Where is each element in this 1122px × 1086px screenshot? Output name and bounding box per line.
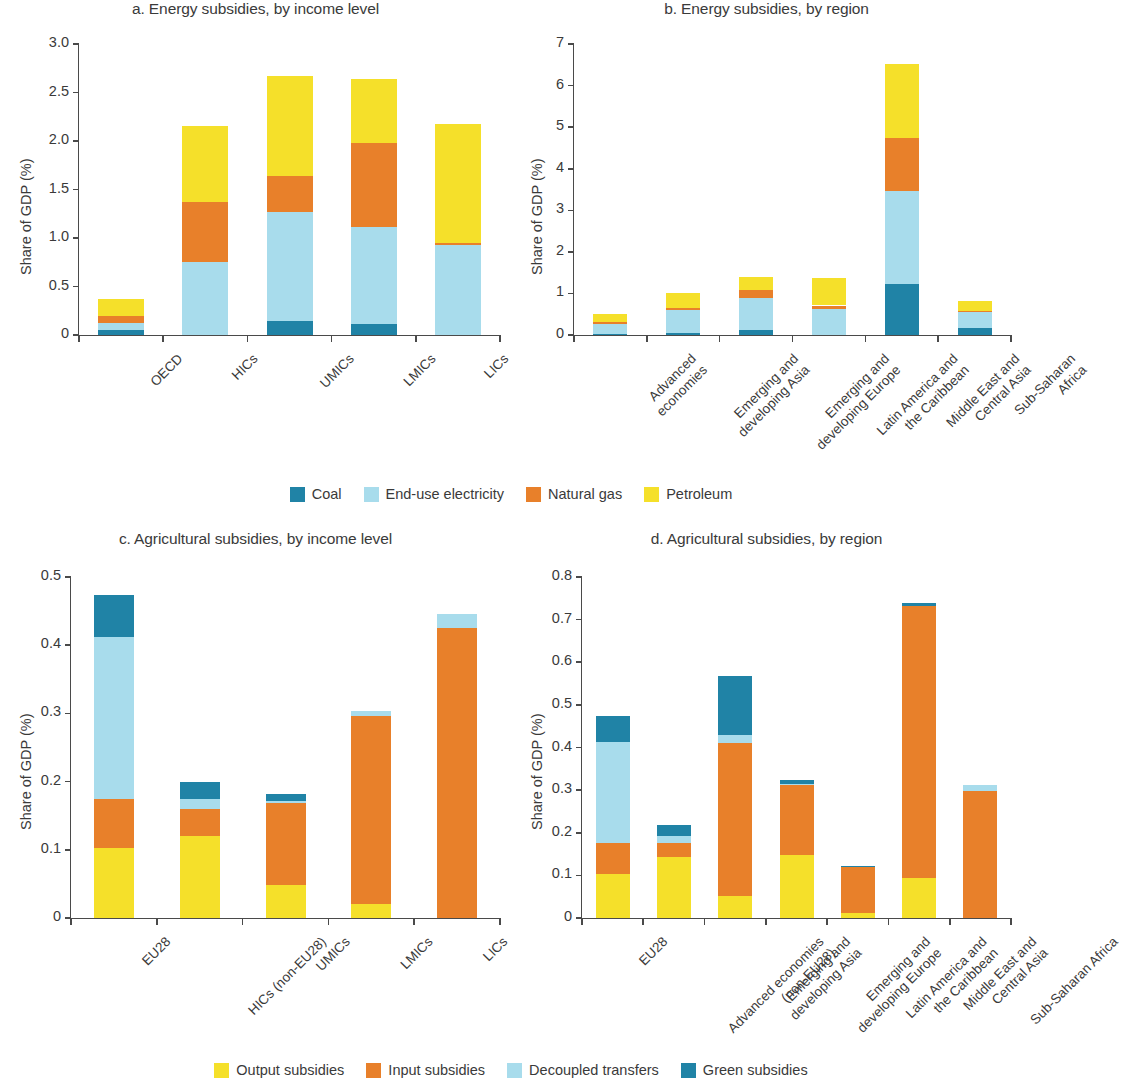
stacked-bar [351, 44, 397, 335]
x-tick-label: LMICs [398, 934, 437, 973]
y-tick-label: 4 [556, 159, 564, 175]
stacked-bar [666, 44, 700, 335]
legend-entry: Natural gas [526, 486, 622, 502]
bar-segment [902, 603, 936, 606]
bar-segment [596, 843, 630, 874]
y-tick-label: 0.3 [41, 703, 61, 719]
y-tick-mark [576, 576, 582, 578]
bar-segment [718, 735, 752, 744]
bar-segment [98, 299, 144, 315]
bar-segment [780, 785, 814, 854]
bar-group [593, 44, 627, 335]
bar-segment [351, 143, 397, 227]
bar-segment [958, 312, 992, 327]
bar-segment [812, 278, 846, 305]
legend-label: Input subsidies [388, 1062, 485, 1078]
y-tick-label: 0.2 [41, 772, 61, 788]
stacked-bar [266, 577, 306, 918]
y-tick-mark [65, 576, 71, 578]
x-tick-mark [247, 335, 249, 342]
bar-segment [666, 308, 700, 310]
bar-group [351, 577, 391, 918]
y-tick-mark [73, 286, 79, 288]
bar-group [739, 44, 773, 335]
bar-segment [739, 298, 773, 330]
bar-segment [885, 138, 919, 192]
stacked-bar [351, 577, 391, 918]
bar-group [182, 44, 228, 335]
y-tick-label: 5 [556, 117, 564, 133]
y-tick-label: 1.0 [49, 228, 69, 244]
legend-swatch [526, 487, 541, 502]
x-tick-mark [70, 918, 72, 925]
bar-segment [666, 333, 700, 335]
bar-segment [351, 711, 391, 716]
bar-segment [902, 606, 936, 877]
bar-segment [780, 784, 814, 786]
bar-segment [266, 803, 306, 884]
bar-segment [266, 885, 306, 918]
bar-group [94, 577, 134, 918]
bar-segment [657, 857, 691, 918]
bar-segment [596, 874, 630, 918]
bar-segment [182, 202, 228, 262]
x-tick-mark [865, 335, 867, 342]
stacked-bar [885, 44, 919, 335]
y-tick-label: 3 [556, 200, 564, 216]
x-tick-label: UMICs [317, 351, 357, 391]
stacked-bar [958, 44, 992, 335]
x-tick-mark [331, 335, 333, 342]
y-tick-label: 0 [564, 908, 572, 924]
stacked-bar [841, 577, 875, 918]
panel-d-title: d. Agricultural subsidies, by region [511, 530, 1022, 548]
y-tick-mark [568, 126, 574, 128]
bar-segment [666, 293, 700, 308]
legend-swatch [366, 1063, 381, 1078]
legend-label: Decoupled transfers [529, 1062, 659, 1078]
bar-segment [902, 878, 936, 918]
y-tick-label: 0.1 [41, 840, 61, 856]
y-tick-mark [568, 43, 574, 45]
panel-c-plot-area: 00.10.20.30.40.5 [70, 578, 499, 919]
stacked-bar [98, 44, 144, 335]
x-tick-mark [162, 335, 164, 342]
stacked-bar [718, 577, 752, 918]
y-tick-label: 1.5 [49, 180, 69, 196]
legend-label: End-use electricity [386, 486, 504, 502]
x-tick-mark [156, 918, 158, 925]
panel-d-agriculture-by-region: d. Agricultural subsidies, by region Sha… [511, 530, 1022, 1050]
legend-swatch [681, 1063, 696, 1078]
bar-segment [718, 743, 752, 896]
bar-group [180, 577, 220, 918]
y-tick-mark [576, 747, 582, 749]
x-tick-label: LICs [480, 934, 511, 965]
y-tick-mark [65, 713, 71, 715]
bar-segment [435, 245, 481, 335]
y-tick-mark [576, 789, 582, 791]
panel-a-energy-by-income: a. Energy subsidies, by income level Sha… [0, 0, 511, 470]
y-tick-mark [73, 237, 79, 239]
y-tick-mark [65, 781, 71, 783]
bar-segment [94, 595, 134, 637]
bar-segment [267, 212, 313, 322]
bar-segment [182, 262, 228, 335]
legend-entry: Output subsidies [214, 1062, 344, 1078]
x-tick-mark [826, 918, 828, 925]
x-tick-mark [573, 335, 575, 342]
y-tick-label: 0.5 [49, 277, 69, 293]
stacked-bar [267, 44, 313, 335]
legend-entry: End-use electricity [364, 486, 504, 502]
bar-segment [739, 290, 773, 298]
bar-segment [180, 809, 220, 836]
x-tick-mark [1010, 918, 1012, 925]
agriculture-legend: Output subsidiesInput subsidiesDecoupled… [0, 1058, 1022, 1082]
bar-segment [180, 782, 220, 799]
bar-segment [98, 316, 144, 324]
bar-segment [266, 794, 306, 801]
panel-a-x-tick-labels: OECDHICsUMICsLMICsLICs [78, 345, 498, 455]
legend-swatch [290, 487, 305, 502]
bar-segment [596, 742, 630, 843]
bar-group [885, 44, 919, 335]
bar-segment [963, 791, 997, 918]
y-tick-label: 0.8 [552, 567, 572, 583]
